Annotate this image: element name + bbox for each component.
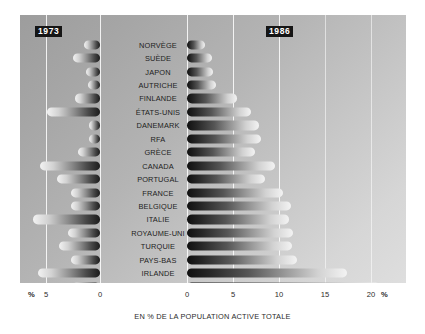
- axis-tick-right-15: 15: [321, 290, 329, 299]
- bar-1973-belgique: [71, 201, 100, 210]
- chart-row: ITALIE: [20, 213, 406, 226]
- bar-1986-france: [187, 188, 283, 197]
- chart-row: JAPON: [20, 65, 406, 78]
- bar-1986-turquie: [187, 242, 292, 251]
- chart-row: NORVÈGE: [20, 38, 406, 51]
- bar-1973-canada: [40, 161, 100, 170]
- bar-1986-suède: [187, 54, 212, 63]
- bar-1986-belgique: [187, 201, 291, 210]
- axis-tick-right-20: 20: [367, 290, 375, 299]
- chart-row: FRANCE: [20, 186, 406, 199]
- chart-row: FINLANDE: [20, 92, 406, 105]
- chart-row: ÉTATS-UNIS: [20, 105, 406, 118]
- chart-row: AUTRICHE: [20, 78, 406, 91]
- chart-row: DANEMARK: [20, 119, 406, 132]
- bar-1973-italie: [33, 215, 100, 224]
- chart-row: GRÈCE: [20, 146, 406, 159]
- axis-tick-right-0: 0: [185, 290, 189, 299]
- axis-tick-left-5: 5: [44, 290, 48, 299]
- chart-plot-area: 1973 1986 NORVÈGESUÈDEJAPONAUTRICHEFINLA…: [20, 15, 406, 283]
- chart-row: RFA: [20, 132, 406, 145]
- bar-1973-danemark: [89, 121, 100, 130]
- bar-1973-pays-bas: [71, 255, 100, 264]
- chart-caption: EN % DE LA POPULATION ACTIVE TOTALE: [0, 312, 425, 321]
- chart-row: ROYAUME-UNI: [20, 226, 406, 239]
- bar-1986-états-unis: [187, 107, 251, 116]
- bar-1986-finlande: [187, 94, 237, 103]
- chart-rows: NORVÈGESUÈDEJAPONAUTRICHEFINLANDEÉTATS-U…: [20, 38, 406, 283]
- bar-1986-italie: [187, 215, 289, 224]
- chart-row: TURQUIE: [20, 240, 406, 253]
- bar-1986-norvège: [187, 40, 205, 49]
- chart-row: PORTUGAL: [20, 172, 406, 185]
- chart-row: PAYS-BAS: [20, 253, 406, 266]
- axis-tick-left-0: 0: [98, 290, 102, 299]
- bar-1973-france: [71, 188, 100, 197]
- bar-1986-pays-bas: [187, 255, 297, 264]
- bar-1973-japon: [86, 67, 100, 76]
- chart-row: SUÈDE: [20, 51, 406, 64]
- chart-row: CANADA: [20, 159, 406, 172]
- bar-1973-portugal: [57, 175, 100, 184]
- year-badge-1986: 1986: [266, 26, 293, 37]
- bar-1973-autriche: [88, 80, 100, 89]
- bar-1986-grèce: [187, 148, 255, 157]
- bar-1986-royaume-uni: [187, 228, 293, 237]
- chart-row: IRLANDE: [20, 266, 406, 279]
- bar-1973-suède: [73, 54, 100, 63]
- axis-left-percent-symbol: %: [28, 290, 35, 299]
- bar-1973-norvège: [84, 40, 100, 49]
- axis-tick-right-10: 10: [275, 290, 283, 299]
- bar-1986-rfa: [187, 134, 261, 143]
- bar-1986-portugal: [187, 175, 265, 184]
- axis-right-percent-symbol: %: [381, 290, 388, 299]
- bar-1973-rfa: [89, 134, 100, 143]
- bar-1973-grèce: [78, 148, 100, 157]
- bar-1986-canada: [187, 161, 275, 170]
- bar-1973-irlande: [38, 269, 100, 278]
- bar-1986-japon: [187, 67, 213, 76]
- bar-1973-états-unis: [47, 107, 100, 116]
- year-badge-1973: 1973: [35, 26, 62, 37]
- bar-1973-finlande: [75, 94, 100, 103]
- bar-1986-irlande: [187, 269, 347, 278]
- chart-panel: 1973 1986 NORVÈGESUÈDEJAPONAUTRICHEFINLA…: [20, 15, 406, 283]
- bar-1986-autriche: [187, 80, 216, 89]
- chart-root: 1973 1986 NORVÈGESUÈDEJAPONAUTRICHEFINLA…: [0, 0, 425, 334]
- axis-tick-right-5: 5: [231, 290, 235, 299]
- bar-1973-espagne: [72, 282, 100, 283]
- bar-1986-danemark: [187, 121, 259, 130]
- bar-1973-turquie: [59, 242, 100, 251]
- bar-1973-royaume-uni: [68, 228, 100, 237]
- chart-row: BELGIQUE: [20, 199, 406, 212]
- chart-row: ESPAGNE: [20, 280, 406, 283]
- bar-1986-espagne: [187, 282, 380, 283]
